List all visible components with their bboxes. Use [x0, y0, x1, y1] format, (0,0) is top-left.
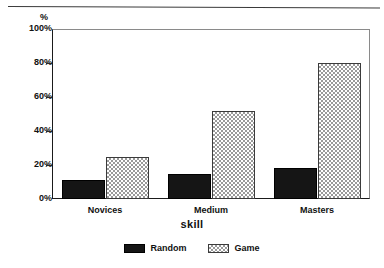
- bar-chart-figure: % 0%20%40%60%80%100% NovicesMediumMaster…: [0, 0, 384, 268]
- y-axis-tick-label: 0%: [8, 194, 52, 203]
- legend-item-game[interactable]: Game: [208, 243, 259, 253]
- bar-random-masters: [274, 168, 317, 199]
- bar-random-medium: [168, 174, 211, 200]
- page-top-rule: [8, 6, 380, 8]
- legend-item-label: Game: [234, 243, 259, 253]
- legend-item-random[interactable]: Random: [124, 243, 186, 253]
- x-axis-tick-label: Novices: [55, 205, 155, 215]
- chart-legend: RandomGame: [0, 243, 384, 253]
- legend-item-label: Random: [150, 243, 186, 253]
- bars-layer: [52, 29, 370, 199]
- black-swatch-icon: [124, 244, 145, 253]
- x-axis-title: skill: [0, 218, 384, 230]
- bar-game-novices: [106, 157, 149, 200]
- x-axis-tick-label: Masters: [267, 205, 367, 215]
- bar-game-medium: [212, 111, 255, 199]
- x-axis-tick-label: Medium: [161, 205, 261, 215]
- y-axis-tick-label: 100%: [8, 24, 52, 33]
- bar-game-masters: [318, 63, 361, 199]
- checkered-swatch-icon: [208, 244, 229, 253]
- bar-random-novices: [62, 180, 105, 199]
